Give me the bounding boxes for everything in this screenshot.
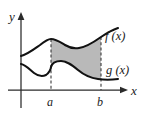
y-axis-label: y — [7, 9, 15, 24]
boundary-label-a: a — [47, 95, 53, 109]
x-axis-label: x — [130, 83, 137, 98]
curve-label-g-of-x: g (x) — [106, 63, 129, 77]
area-between-curves-figure: y x f (x) g (x) a b — [0, 0, 145, 115]
y-axis-arrowhead-icon — [18, 12, 25, 20]
shaded-region-between-curves — [51, 37, 101, 79]
curve-g-of-x — [21, 61, 118, 80]
figure-container: y x f (x) g (x) a b — [0, 0, 145, 115]
curve-label-f-of-x: f (x) — [105, 29, 125, 43]
boundary-label-b: b — [97, 95, 103, 109]
x-axis-arrowhead-icon — [120, 87, 128, 94]
